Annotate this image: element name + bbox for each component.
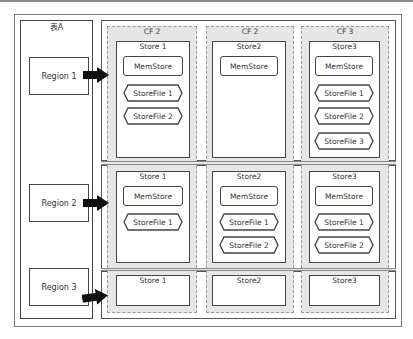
top-border-line — [0, 0, 413, 2]
row-3-store-3-label: Store3 — [309, 276, 380, 285]
region-1-label: Region 1 — [41, 72, 76, 81]
row-1-store-3-storefile-1: StoreFile 1 — [314, 84, 374, 102]
row-1-store-2-label: Store2 — [212, 42, 286, 51]
row-2-store-3-storefile-1: StoreFile 1 — [314, 213, 374, 231]
row-2-store-1-memstore: MemStore — [123, 186, 183, 206]
cf-2-label: CF 2 — [206, 27, 294, 36]
row-2-store-2-storefile-1: StoreFile 1 — [219, 213, 279, 231]
row-1-store-1-storefile-1: StoreFile 1 — [123, 84, 183, 102]
row-2-store-1-label: Store 1 — [116, 172, 190, 181]
row-3-store-1-label: Store 1 — [116, 276, 190, 285]
row-1-store-1-memstore: MemStore — [123, 56, 183, 76]
cf-3-label: CF 3 — [301, 27, 389, 36]
region-2-box: Region 2 — [29, 184, 89, 222]
region-1-arrow-icon — [83, 67, 109, 83]
row-separator-2 — [101, 268, 396, 271]
row-2-store-3-label: Store3 — [309, 172, 380, 181]
row-1-store-2-memstore: MemStore — [220, 56, 278, 76]
row-2-store-3-storefile-2: StoreFile 2 — [314, 236, 374, 254]
row-1-store-3-memstore: MemStore — [315, 56, 373, 76]
row-2-store-3-memstore: MemStore — [315, 186, 373, 206]
region-3-box: Region 3 — [29, 268, 89, 306]
row-1-store-1-storefile-2: StoreFile 2 — [123, 107, 183, 125]
row-1-store-3-storefile-3: StoreFile 3 — [314, 132, 374, 150]
row-2-store-2-memstore: MemStore — [220, 186, 278, 206]
region-3-label: Region 3 — [41, 283, 76, 292]
row-separator-1 — [101, 161, 396, 165]
region-2-arrow-icon — [83, 195, 109, 211]
row-1-store-1-label: Store 1 — [116, 42, 190, 51]
row-1-store-3-storefile-2: StoreFile 2 — [314, 107, 374, 125]
table-a-label: 表A — [20, 21, 93, 32]
row-2-store-2-label: Store2 — [212, 172, 286, 181]
row-2-store-2-storefile-2: StoreFile 2 — [219, 236, 279, 254]
region-1-box: Region 1 — [29, 57, 89, 95]
row-2-store-1-storefile-1: StoreFile 1 — [123, 213, 183, 231]
row-3-store-2-label: Store2 — [212, 276, 286, 285]
cf-1-label: CF 2 — [107, 27, 197, 36]
region-2-label: Region 2 — [41, 199, 76, 208]
row-1-store-3-label: Store3 — [309, 42, 380, 51]
